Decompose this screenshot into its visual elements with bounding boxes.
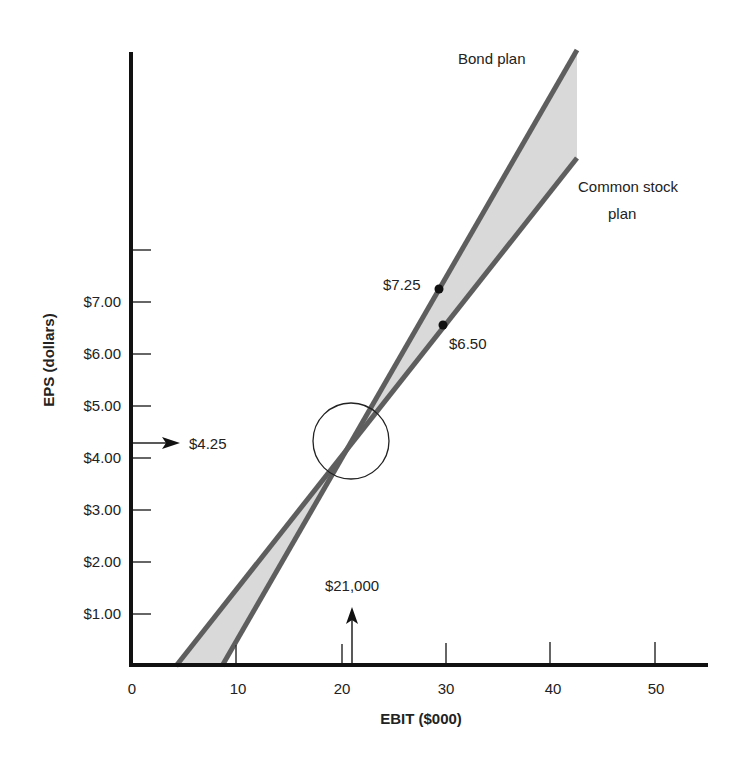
x-ticks xyxy=(236,642,655,663)
bond-point-dot xyxy=(435,285,444,294)
eps-ebit-chart: $1.00 $2.00 $3.00 $4.00 $5.00 $6.00 $7.0… xyxy=(0,0,748,770)
y-ticks xyxy=(133,250,151,614)
y-axis-title: EPS (dollars) xyxy=(40,313,57,406)
x-tick-label: 10 xyxy=(230,680,247,697)
x-tick-label: 40 xyxy=(545,680,562,697)
y-tick-label: $6.00 xyxy=(83,345,121,362)
y-tick-label: $4.00 xyxy=(83,449,121,466)
x-tick-label: 0 xyxy=(128,680,136,697)
y-tick-label: $1.00 xyxy=(83,605,121,622)
y-tick-label: $3.00 xyxy=(83,501,121,518)
ebit-indifference-label: $21,000 xyxy=(325,577,379,594)
bond-plan-label: Bond plan xyxy=(458,50,526,67)
y-tick-label: $5.00 xyxy=(83,397,121,414)
y-tick-label: $2.00 xyxy=(83,553,121,570)
bond-plan-line xyxy=(222,50,577,666)
x-tick-label: 20 xyxy=(334,680,351,697)
stock-point-dot xyxy=(439,321,448,330)
stock-point-label: $6.50 xyxy=(449,335,487,352)
x-axis-title: EBIT ($000) xyxy=(380,710,462,727)
bond-point-label: $7.25 xyxy=(383,276,421,293)
y-tick-label: $7.00 xyxy=(83,293,121,310)
x-tick-label: 30 xyxy=(438,680,455,697)
x-tick-label: 50 xyxy=(648,680,665,697)
common-stock-plan-label-2: plan xyxy=(608,205,636,222)
eps-indifference-label: $4.25 xyxy=(189,435,227,452)
common-stock-plan-label-1: Common stock xyxy=(578,178,679,195)
